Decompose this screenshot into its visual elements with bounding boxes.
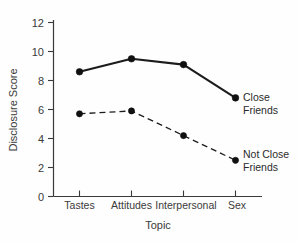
- x-tick-label-interpersonal: Interpersonal: [155, 199, 216, 211]
- y-tick-label-6: 6: [38, 104, 44, 116]
- close-friends-point-sex: [232, 95, 239, 102]
- x-tick-label-sex: Sex: [228, 199, 247, 211]
- legend-not-close-friends-line2: Friends: [243, 161, 278, 173]
- y-tick-label-12: 12: [32, 17, 44, 29]
- x-axis-title: Topic: [145, 219, 171, 231]
- not-close-friends-point-sex: [232, 157, 238, 163]
- chart-figure: 0 2 4 6 8 10 12 Disclosure Score Tastes …: [0, 0, 298, 242]
- close-friends-point-tastes: [76, 69, 83, 76]
- legend-close-friends-line2: Friends: [243, 104, 278, 116]
- legend-close-friends: Close Friends: [243, 91, 278, 116]
- legend-not-close-friends: Not Close Friends: [243, 148, 289, 173]
- y-tick-label-4: 4: [38, 133, 44, 145]
- y-tick-label-10: 10: [32, 46, 44, 58]
- not-close-friends-point-interpersonal: [180, 133, 186, 139]
- close-friends-point-interpersonal: [180, 61, 187, 68]
- y-tick-label-0: 0: [38, 191, 44, 203]
- not-close-friends-point-tastes: [76, 111, 82, 117]
- y-axis-title: Disclosure Score: [7, 68, 19, 151]
- y-tick-label-8: 8: [38, 75, 44, 87]
- legend-not-close-friends-line1: Not Close: [243, 148, 289, 160]
- close-friends-point-attitudes: [128, 56, 135, 63]
- line-chart: 0 2 4 6 8 10 12 Disclosure Score Tastes …: [0, 0, 298, 242]
- not-close-friends-point-attitudes: [128, 108, 134, 114]
- x-tick-label-attitudes: Attitudes: [111, 199, 152, 211]
- close-friends-line: [80, 59, 236, 98]
- series-close-friends: [76, 56, 239, 102]
- not-close-friends-line: [80, 111, 236, 160]
- legend-close-friends-line1: Close: [243, 91, 270, 103]
- y-tick-label-2: 2: [38, 162, 44, 174]
- series-not-close-friends: [76, 108, 238, 164]
- x-tick-label-tastes: Tastes: [64, 199, 94, 211]
